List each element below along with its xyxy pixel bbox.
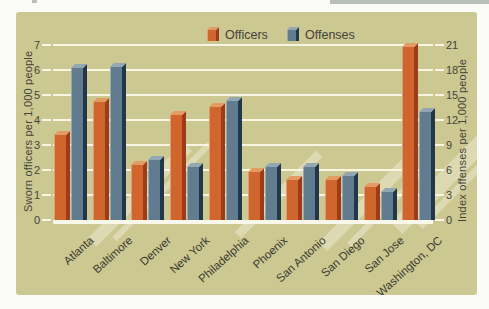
officers-cube-front xyxy=(207,30,217,41)
category-label: Washington, DC xyxy=(374,234,444,295)
legend: Officers Offenses xyxy=(16,12,477,52)
offenses-cube-front xyxy=(287,30,297,41)
category-labels-layer: AtlantaBaltimoreDenverNew YorkPhiladelph… xyxy=(16,12,477,295)
category-label: Atlanta xyxy=(61,234,96,267)
offenses-swatch-icon xyxy=(286,26,300,42)
officers-swatch-icon xyxy=(206,26,220,42)
category-label: Denver xyxy=(137,234,173,268)
scan-artifact-line xyxy=(330,0,489,4)
scan-artifact-dot xyxy=(32,0,37,3)
chart-panel: 01234567036912151821 Sworn officers per … xyxy=(16,12,477,295)
legend-label-offenses: Offenses xyxy=(305,27,355,43)
category-label: Baltimore xyxy=(91,234,135,275)
legend-label-officers: Officers xyxy=(225,27,268,43)
